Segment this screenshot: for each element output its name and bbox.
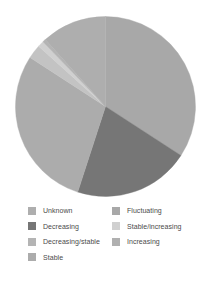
pie-slice-group bbox=[15, 17, 195, 197]
legend-item[interactable]: Decreasing bbox=[28, 219, 112, 235]
legend-item[interactable]: Increasing bbox=[112, 234, 208, 250]
pie-plot-area bbox=[15, 16, 196, 197]
legend-item-label: Decreasing bbox=[43, 222, 79, 231]
legend-item[interactable]: Fluctuating bbox=[112, 203, 208, 219]
legend-item-label: Stable bbox=[43, 253, 63, 262]
legend-swatch-icon bbox=[28, 238, 36, 246]
legend-column-left: UnknownDecreasingDecreasing/stableStable bbox=[28, 203, 112, 265]
legend-item[interactable]: Unknown bbox=[28, 203, 112, 219]
legend-item[interactable]: Stable bbox=[28, 250, 112, 266]
legend-swatch-icon bbox=[112, 222, 120, 230]
legend-swatch-icon bbox=[28, 253, 36, 261]
legend-swatch-icon bbox=[28, 207, 36, 215]
legend-swatch-icon bbox=[112, 238, 120, 246]
legend-item-label: Unknown bbox=[43, 206, 73, 215]
pie-chart-figure: UnknownDecreasingDecreasing/stableStable… bbox=[0, 0, 210, 284]
legend-item[interactable]: Stable/increasing bbox=[112, 219, 208, 235]
chart-legend: UnknownDecreasingDecreasing/stableStable… bbox=[0, 203, 210, 281]
legend-item[interactable]: Decreasing/stable bbox=[28, 234, 112, 250]
legend-item-label: Decreasing/stable bbox=[43, 237, 100, 246]
legend-column-right: FluctuatingStable/increasingIncreasing bbox=[112, 203, 208, 250]
legend-item-label: Stable/increasing bbox=[127, 222, 182, 231]
legend-swatch-icon bbox=[28, 222, 36, 230]
chart-title bbox=[0, 0, 210, 14]
legend-swatch-icon bbox=[112, 207, 120, 215]
pie-svg bbox=[15, 16, 196, 197]
legend-item-label: Increasing bbox=[127, 237, 160, 246]
legend-item-label: Fluctuating bbox=[127, 206, 162, 215]
